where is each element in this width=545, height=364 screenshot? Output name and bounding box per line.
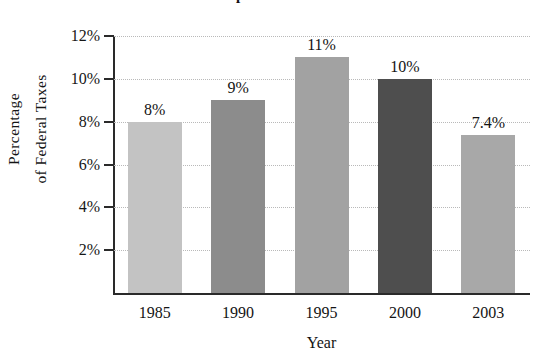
x-tick-label: 1985 <box>139 304 171 322</box>
y-tick-label: 4% <box>79 198 100 216</box>
y-tick-mark <box>104 249 114 251</box>
y-tick-label: 6% <box>79 155 100 173</box>
y-tick-label: 8% <box>79 112 100 130</box>
y-axis-title-line-2: of Federal Taxes <box>27 29 54 229</box>
y-tick-mark <box>104 206 114 208</box>
y-tick-label: 12% <box>71 27 100 45</box>
y-tick-label: 10% <box>71 69 100 87</box>
x-tick-label: 2003 <box>472 304 504 322</box>
x-axis-line <box>113 293 530 295</box>
y-tick-mark <box>104 121 114 123</box>
y-axis-title-line-1: Percentage <box>0 29 27 229</box>
y-tick-mark <box>104 78 114 80</box>
x-tick-label: 2000 <box>389 304 421 322</box>
bar-value-label: 11% <box>307 36 336 54</box>
x-tick-label: 1990 <box>222 304 254 322</box>
y-axis-title: Percentage of Federal Taxes <box>0 29 58 229</box>
y-tick-mark <box>104 164 114 166</box>
y-tick-mark <box>104 35 114 37</box>
bar[interactable]: 11% <box>295 57 349 293</box>
chart-title: Total Corporate Income Taxes <box>0 0 545 4</box>
x-axis-title: Year <box>113 334 530 352</box>
bar[interactable]: 9% <box>211 100 265 293</box>
bar-value-label: 10% <box>390 58 419 76</box>
plot-area: 12%10%8%6%4%2% 8%19859%199011%199510%200… <box>113 36 530 293</box>
bar-value-label: 7.4% <box>472 114 505 132</box>
x-tick-label: 1995 <box>306 304 338 322</box>
bar[interactable]: 10% <box>378 79 432 293</box>
y-tick-label: 2% <box>79 241 100 259</box>
bar-value-label: 9% <box>227 79 248 97</box>
bar[interactable]: 7.4% <box>461 135 515 293</box>
bar[interactable]: 8% <box>128 122 182 293</box>
bar-chart: Total Corporate Income Taxes Percentage … <box>0 0 545 364</box>
bar-value-label: 8% <box>144 101 165 119</box>
